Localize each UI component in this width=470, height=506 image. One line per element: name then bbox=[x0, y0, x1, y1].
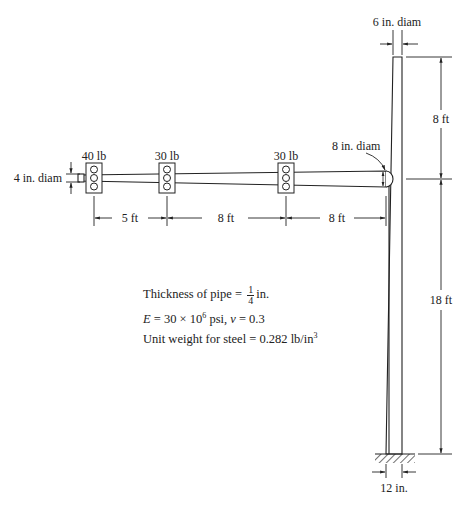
top-diameter-dimension bbox=[380, 30, 418, 55]
signal-arm bbox=[78, 171, 393, 187]
span-label-2: 8 ft bbox=[218, 211, 235, 225]
top-diameter-label: 6 in. diam bbox=[373, 15, 422, 29]
thickness-text: Thickness of pipe = bbox=[143, 287, 242, 301]
signal-load-3: 30 lb bbox=[274, 149, 298, 163]
signal-load-1: 40 lb bbox=[82, 149, 106, 163]
unit-weight-note: Unit weight for steel = 0.282 lb/in3 bbox=[143, 331, 318, 347]
modulus-note: E = 30 × 106 psi, ν = 0.3 bbox=[143, 311, 265, 327]
fixed-support-ground bbox=[375, 454, 415, 463]
thickness-fraction: 14 bbox=[247, 285, 254, 306]
thickness-unit: in. bbox=[256, 287, 269, 301]
span-label-3: 8 ft bbox=[329, 211, 346, 225]
root-diameter-label: 8 in. diam bbox=[332, 139, 381, 153]
span-label-1: 5 ft bbox=[122, 211, 139, 225]
signal-head-2 bbox=[159, 163, 175, 193]
diagram-canvas: 40 lb 30 lb 30 lb 4 in. diam 8 in. diam bbox=[0, 0, 470, 506]
structure-drawing: 40 lb 30 lb 30 lb 4 in. diam 8 in. diam bbox=[0, 0, 470, 506]
signal-head-1 bbox=[86, 163, 102, 193]
base-width-label: 12 in. bbox=[380, 481, 407, 495]
signal-head-3 bbox=[278, 163, 294, 193]
pole bbox=[386, 57, 402, 454]
root-diameter-leader bbox=[366, 153, 385, 170]
thickness-note: Thickness of pipe = 14in. bbox=[143, 285, 269, 306]
tip-diameter-label: 4 in. diam bbox=[14, 171, 63, 185]
base-width-dimension bbox=[372, 464, 416, 478]
signal-load-2: 30 lb bbox=[155, 149, 179, 163]
upper-height-label: 8 ft bbox=[433, 112, 450, 126]
lower-height-label: 18 ft bbox=[430, 293, 453, 307]
